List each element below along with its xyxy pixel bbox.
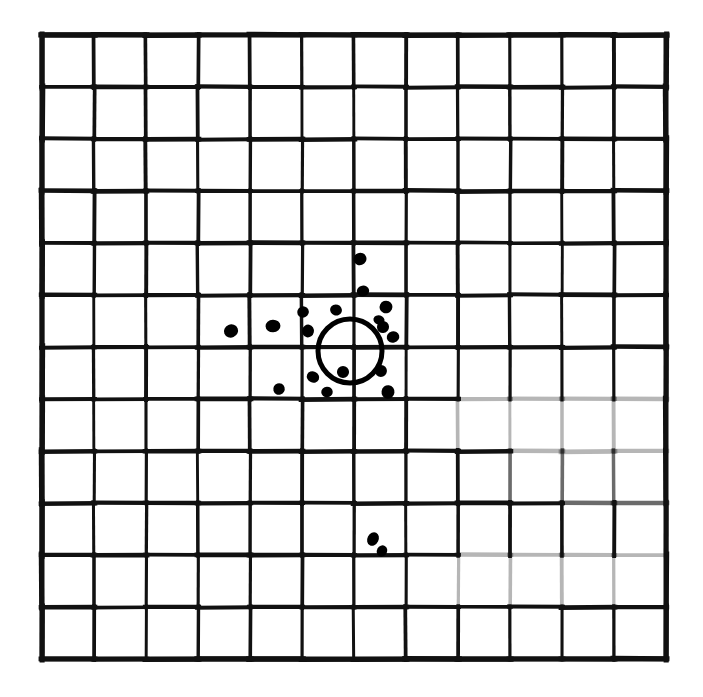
figure-root — [0, 0, 703, 697]
impact-dot — [337, 366, 349, 378]
grid-scatter-figure — [0, 0, 703, 697]
